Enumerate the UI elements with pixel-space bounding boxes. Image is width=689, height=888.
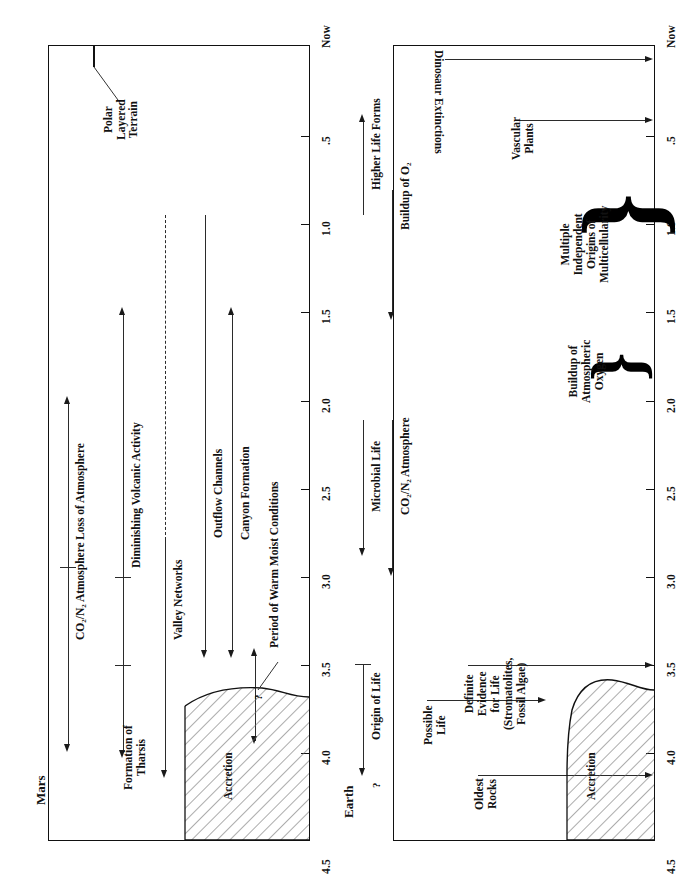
mars-arrow-valley-end	[161, 770, 167, 778]
mars-lane-valley-dashed	[165, 215, 166, 540]
mars-label-outflow-channels: Outflow Channels	[212, 449, 225, 538]
mars-tick-label-2.5: 2.5	[320, 486, 332, 501]
mars-tick-label-0.5: .5	[320, 136, 332, 145]
earth-panel-title: Earth	[341, 786, 357, 819]
mars-arrow-canyon-end	[228, 650, 234, 658]
mars-label-valley-networks: Valley Networks	[172, 560, 185, 640]
mars-tick-label-4.5: 4.5	[320, 859, 332, 874]
mars-lane-canyon	[232, 312, 233, 652]
earth-label-dinosaur-extinctions: Dinosaur Extinctions	[432, 50, 445, 154]
earth-tick-label-3.5: 3.5	[665, 662, 677, 677]
mars-arrow-canyon-start	[228, 307, 234, 315]
mars-cap-volcanic-lower	[115, 577, 131, 578]
earth-tick-label-0.5: .5	[665, 136, 677, 145]
earth-label-question: ?	[370, 783, 383, 789]
mars-label-co2n2: CO₂/N₂ Atmosphere	[74, 542, 87, 640]
earth-label-vascular-plants: Vascular Plants	[510, 117, 536, 160]
mars-label-canyon-formation: Canyon Formation	[239, 446, 252, 540]
mars-tick-0.5	[301, 136, 310, 137]
earth-tick-label-4.5: 4.5	[665, 859, 677, 874]
earth-tick-label-3.0: 3.0	[665, 574, 677, 589]
mars-tick-2.5	[301, 489, 310, 490]
mars-lane-valley	[165, 540, 166, 772]
mars-tick-2.0	[301, 401, 310, 402]
earth-label-definite-evidence-for-life: Definite Evidence for Life (Stromatolite…	[463, 658, 527, 730]
earth-pointer-oldest-rocks	[478, 775, 650, 776]
mars-tick-1.5	[301, 312, 310, 313]
earth-label-buildup-of-o2: Buildup of O₂	[399, 163, 412, 230]
earth-label-microbial-life: Microbial Life	[370, 441, 383, 512]
mars-lane-outflow	[205, 215, 206, 652]
earth-arrowhead-vascular-plants	[645, 117, 653, 123]
mars-label-formation-of-tharsis: Formation of Tharsis	[122, 725, 148, 790]
earth-label-origin-of-life: Origin of Life	[370, 672, 383, 740]
earth-tick-label-4.0: 4.0	[665, 750, 677, 765]
mars-cap-tharsis	[115, 665, 131, 666]
mars-time-axis	[309, 45, 310, 841]
earth-lane-buildup-o2	[392, 190, 393, 315]
earth-tick-0.5	[646, 136, 655, 137]
earth-tick-3.0	[646, 577, 655, 578]
earth-lane-co2n2	[392, 420, 393, 570]
earth-top-rule	[393, 45, 655, 46]
mars-tick-label-1.5: 1.5	[320, 309, 332, 324]
earth-lane-origin-of-life	[363, 665, 364, 770]
earth-arrowhead-oldest-rocks	[645, 772, 653, 778]
earth-label-co2n2-atmosphere: CO₂/N₂ Atmosphere	[399, 417, 412, 515]
mars-tick-4.0	[301, 753, 310, 754]
earth-tick-label-1.5: 1.5	[665, 309, 677, 324]
earth-tick-label-2.0: 2.0	[665, 398, 677, 413]
earth-tick-label-now: Now	[665, 25, 677, 48]
earth-tick-2.5	[646, 489, 655, 490]
mars-tick-label-1.0: 1.0	[320, 221, 332, 236]
earth-lane-microbial	[363, 420, 364, 550]
earth-arrow-buildup-o2-end	[388, 312, 394, 320]
mars-label-diminishing-volcanic-activity: Diminishing Volcanic Activity	[130, 422, 143, 568]
mars-tick-label-3.0: 3.0	[320, 574, 332, 589]
mars-tick-3.0	[301, 577, 310, 578]
mars-label-accretion: Accretion	[222, 752, 235, 800]
mars-arrow-volcanic-start	[119, 307, 125, 315]
earth-cap-origin	[355, 664, 371, 665]
earth-label-higher-life-forms: Higher Life Forms	[370, 98, 383, 190]
earth-left-edge	[393, 45, 394, 840]
earth-lane-higher-life	[363, 120, 364, 215]
figure-canvas: Now .5 1.0 1.5 2.0 2.5 3.0 3.5 4.0 4.5 M…	[0, 0, 689, 888]
earth-label-buildup-atmospheric-oxygen: Buildup of Atmospheric Oxygen	[567, 340, 606, 403]
earth-label-possible-life: Possible Life	[422, 705, 448, 745]
mars-arrow-warm-moist-start	[251, 648, 257, 656]
mars-tick-label-now: Now	[320, 25, 332, 48]
mars-panel-title: Mars	[33, 775, 49, 805]
earth-arrow-co2n2-end	[388, 568, 394, 576]
mars-tick-label-2.0: 2.0	[320, 398, 332, 413]
mars-tick-label-4.0: 4.0	[320, 750, 332, 765]
earth-arrowhead-possible-life	[538, 697, 546, 703]
earth-label-oldest-rocks: Oldest Rocks	[473, 778, 499, 810]
mars-marker-polar	[93, 45, 95, 67]
mars-arrow-co2n2-end	[64, 744, 70, 752]
mars-arrow-co2n2-start	[64, 396, 70, 404]
mars-lane-co2n2	[68, 401, 69, 746]
panel-earth: Now .5 1.0 1.5 2.0 2.5 3.0 3.5 4.0 4.5 E…	[345, 0, 689, 888]
earth-tick-4.0	[646, 753, 655, 754]
earth-bottom-rule	[393, 840, 655, 841]
earth-arrowhead-definite-evidence	[645, 662, 653, 668]
earth-label-accretion: Accretion	[585, 752, 598, 800]
earth-tick-1.5	[646, 312, 655, 313]
mars-lane-volcanic	[123, 312, 124, 752]
mars-tick-label-3.5: 3.5	[320, 662, 332, 677]
earth-arrow-higher-life-start	[359, 114, 365, 122]
mars-tick-1.0	[301, 224, 310, 225]
mars-label-polar-layered-terrain: Polar Layered Terrain	[102, 99, 140, 140]
mars-top-rule	[48, 45, 310, 46]
mars-label-question: ?	[252, 695, 265, 701]
mars-left-edge	[48, 45, 49, 840]
earth-arrow-origin-end	[359, 768, 365, 776]
earth-label-multiple-independent-origins: Multiple Independent Origins of Multicel…	[559, 206, 611, 283]
earth-pointer-dinosaur-extinctions	[445, 59, 651, 60]
mars-bottom-rule	[48, 840, 310, 841]
mars-tick-3.5	[301, 665, 310, 666]
mars-label-loss-atmosphere: Loss of Atmosphere	[74, 443, 87, 540]
earth-tick-label-2.5: 2.5	[665, 486, 677, 501]
earth-arrow-microbial-end	[359, 548, 365, 556]
